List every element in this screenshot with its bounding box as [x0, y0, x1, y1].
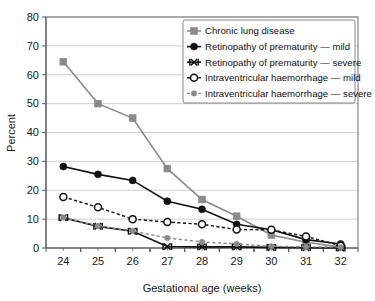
y-axis-tick-labels: 01020304050607080	[27, 11, 39, 254]
x-tick-label-27: 27	[161, 255, 173, 267]
data-point-3-0	[60, 193, 67, 200]
x-tick-label-28: 28	[196, 255, 208, 267]
y-tick-label-60: 60	[27, 69, 39, 81]
legend-item-3[interactable]: Intraventricular haemorrhage — mild	[187, 72, 361, 83]
data-point-0-2	[129, 115, 136, 122]
chart-container: 01020304050607080 242526272829303132 Per…	[0, 0, 375, 301]
data-point-1-2	[129, 177, 136, 184]
data-point-3-7	[303, 233, 310, 240]
data-point-4-1	[95, 223, 100, 228]
y-axis-title: Percent	[5, 114, 17, 152]
chart-legend: Chronic lung diseaseRetinopathy of prema…	[183, 20, 372, 103]
data-point-4-2	[130, 228, 135, 233]
legend-marker-3	[191, 74, 198, 81]
data-point-4-8	[338, 244, 343, 249]
x-axis-ticks	[46, 248, 358, 252]
data-point-3-1	[95, 204, 102, 211]
legend-label-0: Chronic lung disease	[205, 25, 295, 36]
y-tick-label-80: 80	[27, 11, 39, 23]
data-point-1-0	[60, 163, 67, 170]
legend-item-1[interactable]: Retinopathy of prematurity — mild	[187, 41, 350, 52]
data-point-0-1	[95, 100, 102, 107]
x-tick-label-31: 31	[300, 255, 312, 267]
data-point-4-3	[165, 235, 170, 240]
data-point-3-3	[164, 219, 171, 226]
legend-label-1: Retinopathy of prematurity — mild	[205, 41, 350, 52]
legend-marker-4	[191, 91, 196, 96]
legend-item-2[interactable]: Retinopathy of prematurity — severe	[187, 57, 361, 68]
y-tick-label-30: 30	[27, 155, 39, 167]
data-point-0-3	[164, 165, 171, 172]
y-tick-label-10: 10	[27, 213, 39, 225]
data-point-4-7	[303, 244, 308, 249]
data-point-1-3	[164, 198, 171, 205]
line-chart: 01020304050607080 242526272829303132 Per…	[0, 0, 375, 301]
y-tick-label-20: 20	[27, 184, 39, 196]
legend-item-4[interactable]: Intraventricular haemorrhage — severe	[187, 88, 372, 99]
data-point-3-2	[129, 216, 136, 223]
x-axis-title: Gestational age (weeks)	[143, 282, 262, 294]
y-tick-label-50: 50	[27, 97, 39, 109]
x-tick-label-29: 29	[231, 255, 243, 267]
data-point-4-5	[234, 241, 239, 246]
y-axis-ticks	[42, 17, 46, 248]
legend-label-2: Retinopathy of prematurity — severe	[205, 57, 361, 68]
x-tick-label-25: 25	[92, 255, 104, 267]
data-point-3-5	[233, 226, 240, 233]
legend-label-3: Intraventricular haemorrhage — mild	[205, 72, 361, 83]
x-axis-tick-labels: 242526272829303132	[57, 255, 347, 267]
data-point-4-6	[269, 244, 274, 249]
data-point-0-0	[60, 58, 67, 65]
data-point-1-1	[95, 171, 102, 178]
data-point-0-5	[233, 213, 240, 220]
data-point-0-4	[199, 196, 206, 203]
y-tick-label-40: 40	[27, 126, 39, 138]
data-point-3-4	[199, 221, 206, 228]
data-point-4-4	[199, 239, 204, 244]
y-tick-label-70: 70	[27, 40, 39, 52]
x-tick-label-24: 24	[57, 255, 69, 267]
x-tick-label-26: 26	[127, 255, 139, 267]
legend-marker-1	[191, 43, 198, 50]
data-point-4-0	[61, 215, 66, 220]
legend-marker-0	[191, 28, 198, 35]
y-tick-label-0: 0	[33, 242, 39, 254]
x-tick-label-32: 32	[335, 255, 347, 267]
data-point-3-6	[268, 226, 275, 233]
legend-label-4: Intraventricular haemorrhage — severe	[205, 88, 372, 99]
data-point-1-4	[199, 206, 206, 213]
x-tick-label-30: 30	[265, 255, 277, 267]
